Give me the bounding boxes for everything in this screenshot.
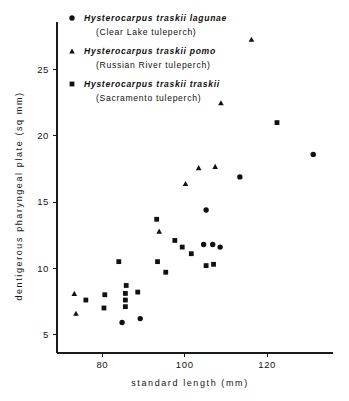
data-point-square (180, 245, 185, 250)
data-point-triangle (73, 311, 79, 316)
data-point-circle (217, 244, 222, 249)
x-tick-label: 80 (96, 359, 108, 370)
y-tick-label: 5 (43, 329, 49, 340)
legend-scientific-name: Hysterocarpus traskii traskii (84, 79, 220, 89)
data-point-square (123, 298, 128, 303)
series-square (83, 120, 279, 310)
y-axis-title: dentigerous pharyngeal plate (sq mm) (14, 91, 24, 300)
data-point-square (102, 306, 107, 311)
data-point-square (211, 262, 216, 267)
data-point-square (83, 298, 88, 303)
data-point-circle (138, 316, 143, 321)
data-point-square (172, 238, 177, 243)
data-point-square (102, 292, 107, 297)
data-point-triangle (156, 229, 162, 234)
data-point-triangle (218, 100, 224, 105)
y-tick-label: 10 (37, 263, 49, 274)
legend-common-name: (Russian River tuleperch) (96, 60, 210, 70)
triangle-marker (69, 48, 75, 53)
data-point-square (163, 270, 168, 275)
legend-scientific-name: Hysterocarpus traskii lagunae (84, 13, 227, 23)
y-tick-label: 20 (37, 130, 49, 141)
data-point-circle (311, 152, 316, 157)
x-axis-ticks: 80100120 (96, 353, 275, 370)
data-point-square (275, 120, 280, 125)
y-tick-label: 25 (37, 64, 49, 75)
data-point-triangle (183, 181, 189, 186)
data-point-circle (203, 207, 208, 212)
x-tick-label: 100 (176, 359, 194, 370)
data-point-triangle (196, 165, 202, 170)
data-point-triangle (212, 164, 218, 169)
data-point-triangle (72, 291, 78, 296)
data-point-square (123, 291, 128, 296)
data-point-square (204, 263, 209, 268)
data-point-square (123, 304, 128, 309)
data-point-triangle (249, 37, 255, 42)
data-point-circle (237, 174, 242, 179)
scatter-plot-figure: 510152025 80100120 Hysterocarpus traskii… (0, 0, 349, 401)
data-point-circle (210, 242, 215, 247)
data-point-square (189, 251, 194, 256)
data-point-circle (201, 242, 206, 247)
x-tick-label: 120 (258, 359, 276, 370)
data-point-circle (119, 320, 124, 325)
axes (57, 22, 333, 353)
square-marker (70, 82, 75, 87)
circle-marker (69, 15, 74, 20)
series-circle (119, 152, 316, 326)
legend: Hysterocarpus traskii lagunae(Clear Lake… (69, 13, 227, 103)
legend-common-name: (Clear Lake tuleperch) (96, 27, 196, 37)
y-axis-ticks: 510152025 (37, 64, 57, 340)
data-point-square (135, 290, 140, 295)
legend-common-name: (Sacramento tuleperch) (96, 93, 201, 103)
data-point-square (124, 283, 129, 288)
data-point-square (155, 259, 160, 264)
y-tick-label: 15 (37, 196, 49, 207)
plot-canvas: 510152025 80100120 Hysterocarpus traskii… (0, 0, 349, 401)
legend-scientific-name: Hysterocarpus traskii pomo (84, 46, 216, 56)
data-point-square (154, 217, 159, 222)
data-point-square (116, 259, 121, 264)
x-axis-title: standard length (mm) (131, 378, 249, 388)
